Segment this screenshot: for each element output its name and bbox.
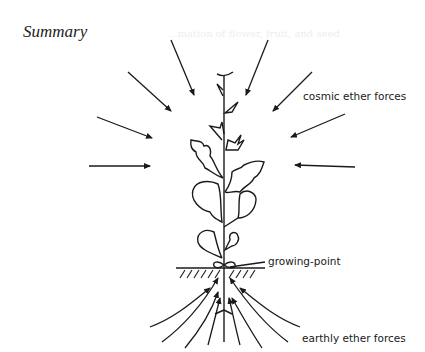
earthly-force-arrows [150,278,300,348]
plant-ether-forces-diagram [0,0,425,352]
cosmic-ether-forces-label: cosmic ether forces [303,90,406,102]
growing-point-label: growing-point [268,255,341,267]
plant [176,72,265,342]
cosmic-force-arrows [89,40,355,167]
diagram-page: ...mation of flower, fruit, and seed Sum… [0,0,425,352]
earthly-ether-forces-label: earthly ether forces [302,332,406,344]
soil-hatching [180,270,255,278]
